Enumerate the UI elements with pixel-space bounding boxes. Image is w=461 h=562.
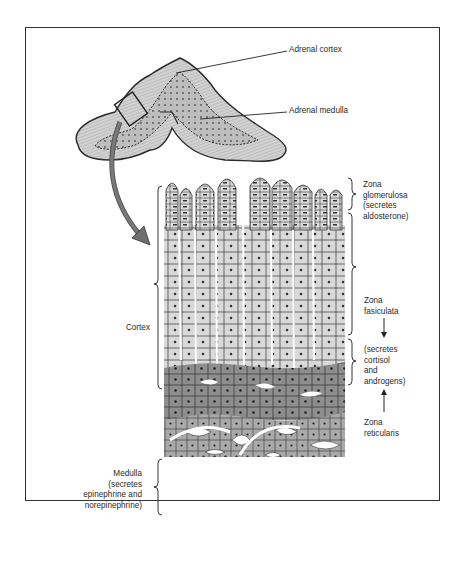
label-zona-fasciculata: Zona fasiculata [364,296,399,317]
label-line: aldosterone) [363,212,409,223]
label-line: Zona [364,418,399,429]
label-line: glomerulosa [363,191,409,202]
label-line: norepinephrine) [60,501,142,512]
right-braces [348,178,356,385]
glomerulosa-brace [348,178,356,210]
tissue-section [164,175,345,460]
fasciculata-brace [348,213,356,335]
label-line: androgens) [364,377,405,388]
label-line: fasiculata [364,307,399,318]
label-line: (secretes [363,201,409,212]
label-zona-glomerulosa: Zona glomerulosa (secretes aldosterone) [363,180,409,222]
zona-reticularis-tissue [164,362,345,420]
label-line: Zona [364,296,399,307]
label-line: and [364,366,405,377]
label-line: Medulla [60,469,142,480]
label-medulla: Medulla (secretes epinephrine and norepi… [60,469,142,511]
medulla-brace [154,459,162,515]
left-braces [154,186,162,515]
label-cortex: Cortex [100,323,150,334]
cortex-leader-line [176,51,287,73]
label-secretion-cortisol: (secretes cortisol and androgens) [364,345,405,387]
label-adrenal-medulla: Adrenal medulla [289,106,348,117]
label-line: Zona [363,180,409,191]
adrenal-gland [76,58,286,161]
cortex-brace [154,186,162,389]
label-adrenal-cortex: Adrenal cortex [289,45,342,56]
label-zona-reticularis: Zona reticularis [364,418,399,439]
zona-glomerulosa-tissue [164,175,345,230]
label-line: (secretes [60,480,142,491]
reticularis-brace [348,339,356,385]
label-line: cortisol [364,356,405,367]
label-line: reticularis [364,429,399,440]
label-line: epinephrine and [60,490,142,501]
label-line: (secretes [364,345,405,356]
